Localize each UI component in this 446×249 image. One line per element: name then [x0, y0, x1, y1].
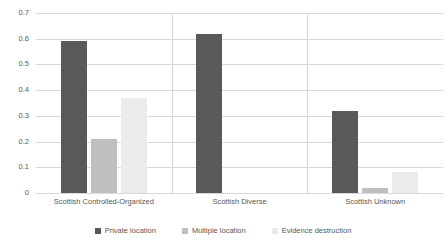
legend-item[interactable]: Multiple location: [182, 227, 246, 235]
y-axis-tick-label: 0.5: [19, 61, 29, 69]
x-axis-category-labels: Scottish Controlled-OrganizedScottish Di…: [36, 196, 443, 214]
legend-swatch-icon: [182, 228, 188, 234]
bar[interactable]: [332, 111, 358, 193]
chart-legend: Private locationMultiple locationEvidenc…: [0, 227, 446, 235]
bar-group: [36, 13, 172, 193]
y-axis-tick-label: 0.2: [19, 138, 29, 146]
y-axis-tick-label: 0.3: [19, 112, 29, 120]
legend-item[interactable]: Evidence destruction: [272, 227, 352, 235]
bar-chart: 00.10.20.30.40.50.60.7 Scottish Controll…: [0, 0, 446, 249]
y-axis: 00.10.20.30.40.50.60.7: [0, 13, 31, 193]
gridline: [36, 193, 443, 194]
legend-swatch-icon: [272, 228, 278, 234]
plot-area: [36, 13, 443, 193]
bar[interactable]: [121, 98, 147, 193]
bar[interactable]: [91, 139, 117, 193]
y-axis-tick-label: 0.6: [19, 35, 29, 43]
legend-label: Multiple location: [192, 227, 246, 235]
y-axis-tick-label: 0: [25, 189, 29, 197]
legend-label: Private location: [105, 227, 156, 235]
bar[interactable]: [196, 34, 222, 193]
legend-swatch-icon: [95, 228, 101, 234]
y-axis-tick-label: 0.1: [19, 164, 29, 172]
legend-item[interactable]: Private location: [95, 227, 156, 235]
x-axis-tick-label: Scottish Unknown: [345, 198, 405, 206]
bar[interactable]: [362, 188, 388, 193]
bar[interactable]: [392, 172, 418, 193]
bar-group: [172, 13, 308, 193]
y-axis-tick-label: 0.7: [19, 9, 29, 17]
legend-label: Evidence destruction: [282, 227, 352, 235]
bar[interactable]: [61, 41, 87, 193]
bar-group: [307, 13, 443, 193]
x-axis-tick-label: Scottish Controlled-Organized: [54, 198, 154, 206]
x-axis-tick-label: Scottish Diverse: [212, 198, 266, 206]
y-axis-tick-label: 0.4: [19, 86, 29, 94]
